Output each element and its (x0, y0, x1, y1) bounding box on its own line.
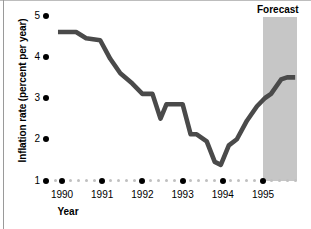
plot-area (0, 0, 311, 229)
inflation-rate-chart: Forecast Inflation rate (percent per yea… (0, 0, 311, 229)
inflation-line (58, 32, 295, 165)
